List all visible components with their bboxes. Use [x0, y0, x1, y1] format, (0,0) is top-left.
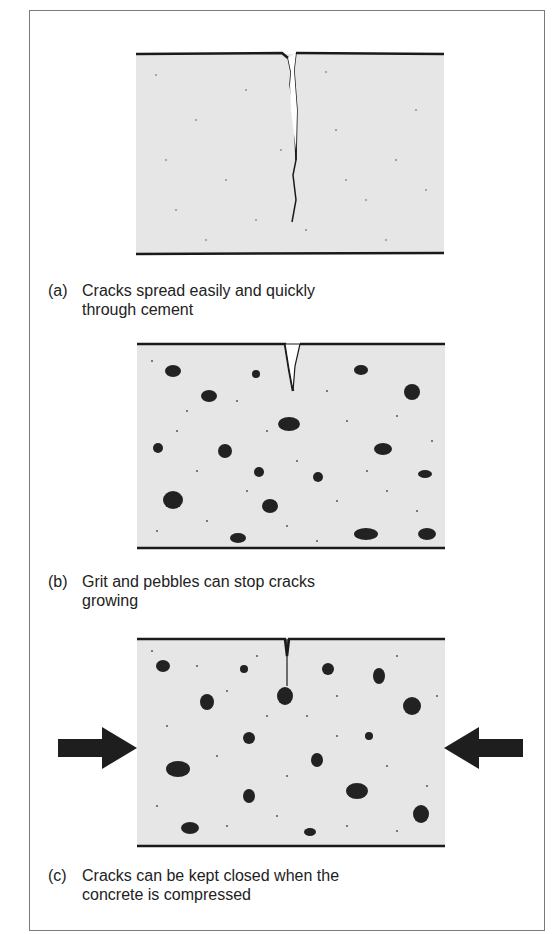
caption-a-line2: through cement [48, 300, 315, 319]
caption-a-tag: (a) [48, 281, 82, 300]
caption-c-line1: Cracks can be kept closed when the [82, 867, 339, 884]
caption-b: (b)Grit and pebbles can stop cracks grow… [48, 572, 315, 610]
caption-b-line2: growing [48, 591, 315, 610]
cement-block-illustration [136, 50, 446, 258]
panel-c-compressed-concrete [137, 636, 447, 848]
concrete-block-illustration [137, 341, 447, 551]
panel-b-concrete-pebbles [137, 341, 447, 551]
compressed-concrete-illustration [137, 636, 447, 848]
arrow-right-icon [58, 727, 138, 769]
caption-b-line1: Grit and pebbles can stop cracks [82, 573, 315, 590]
caption-c-tag: (c) [48, 866, 82, 885]
arrow-left-icon [444, 727, 524, 769]
caption-a: (a)Cracks spread easily and quickly thro… [48, 281, 315, 319]
caption-b-tag: (b) [48, 572, 82, 591]
right-compression-arrow [444, 727, 524, 769]
panel-a-cement-crack [136, 50, 446, 258]
caption-c: (c)Cracks can be kept closed when the co… [48, 866, 339, 904]
caption-a-line1: Cracks spread easily and quickly [82, 282, 315, 299]
caption-c-line2: concrete is compressed [48, 885, 339, 904]
left-compression-arrow [58, 727, 138, 769]
